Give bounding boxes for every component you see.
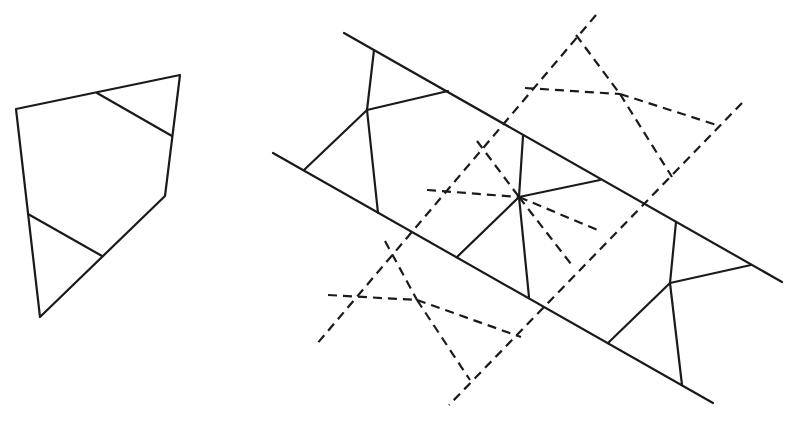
quadrilateral-inner-edge [97, 93, 172, 136]
tile-edge [367, 110, 378, 213]
dashed-tile-edge [620, 94, 672, 177]
strip-top-boundary [344, 33, 782, 282]
dashed-tile-edge [620, 94, 720, 126]
dashed-tile-edge [519, 197, 571, 264]
dashed-tile-edge [328, 295, 417, 300]
dashed-tile-edge [427, 190, 519, 197]
tile-edge [519, 197, 529, 297]
left-quadrilateral [16, 75, 180, 317]
tile-edge [367, 91, 448, 110]
strip-bottom-boundary [273, 153, 713, 403]
tile-edge [457, 197, 519, 257]
geometric-diagram [0, 0, 795, 429]
tile-edge [670, 222, 676, 283]
dashed-tile-edge [477, 141, 519, 197]
tile-edge [670, 265, 751, 283]
quadrilateral-outline [16, 75, 180, 317]
dashed-strip-left-boundary [316, 15, 596, 345]
dashed-tile-edge [417, 300, 470, 380]
dashed-tile-edge [417, 300, 521, 337]
tile-edge [367, 50, 374, 110]
dashed-tile-edge [385, 241, 417, 300]
dashed-strip-right-boundary [449, 103, 742, 405]
tile-edge [670, 283, 682, 385]
dashed-tile-edge [525, 88, 620, 94]
tile-edge [608, 283, 670, 343]
tile-edge [519, 180, 600, 197]
tile-edge [304, 110, 367, 170]
dashed-tile-edge [576, 35, 620, 94]
tile-edge [519, 136, 523, 197]
quadrilateral-inner-edge [28, 214, 102, 256]
